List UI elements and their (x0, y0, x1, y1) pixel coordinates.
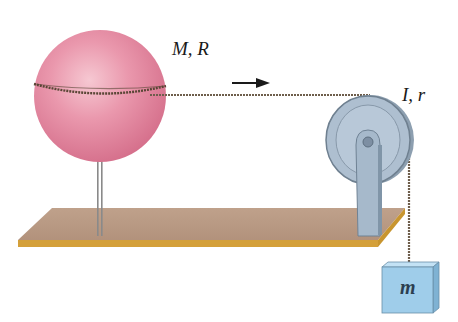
block-label: m (400, 276, 416, 299)
sphere-label: M, R (172, 38, 209, 60)
diagram-canvas (0, 0, 458, 322)
table (17, 206, 405, 252)
sphere (34, 30, 166, 162)
arrow-icon (232, 78, 270, 88)
pulley-label: I, r (402, 84, 425, 106)
